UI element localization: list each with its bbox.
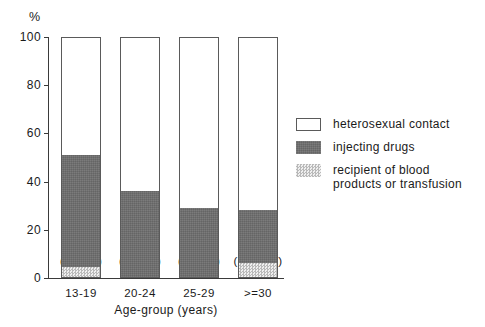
legend-label: heterosexual contact [333,117,450,131]
y-tick-mark [44,133,48,134]
category-label: >=30 [244,287,272,299]
bar-segment-injecting-drugs[interactable] [180,208,218,277]
bar-stack[interactable] [238,37,278,278]
legend-swatch-icon [296,141,321,154]
legend-swatch-icon [296,118,321,131]
legend-item-heterosexual-contact[interactable]: heterosexual contact [296,117,476,131]
bar-segment-injecting-drugs[interactable] [239,210,277,263]
y-tick-label: 60 [27,126,41,140]
bar-stack[interactable] [61,37,101,278]
y-tick-mark [44,85,48,86]
chart-figure: % 100 80 60 40 20 0 (n=13 [0,0,485,327]
y-tick-label: 20 [27,223,41,237]
y-tick-label: 100 [20,30,41,44]
y-tick-mark [44,230,48,231]
bar-segment-injecting-drugs[interactable] [121,191,159,277]
category-label: 25-29 [183,287,214,299]
legend-swatch-icon [296,164,321,177]
y-tick-mark [44,182,48,183]
category-label: 20-24 [124,287,155,299]
bar-segment-heterosexual-contact[interactable] [121,38,159,191]
bar-stack[interactable] [120,37,160,278]
bar-segment-injecting-drugs[interactable] [62,155,100,267]
y-tick-label: 80 [27,78,41,92]
y-tick-label: 0 [34,271,41,285]
legend-label: recipient of blood products or transfusi… [333,163,462,191]
y-axis-unit-label: % [29,10,40,24]
legend: heterosexual contact injecting drugs rec… [296,117,476,200]
bar-segment-blood-products[interactable] [239,263,277,277]
x-axis-line [48,278,284,279]
y-tick-mark [44,278,48,279]
bar-segment-heterosexual-contact[interactable] [180,38,218,208]
category-label: 13-19 [65,287,96,299]
bar-segment-heterosexual-contact[interactable] [239,38,277,210]
bar-segment-heterosexual-contact[interactable] [62,38,100,155]
y-tick-mark [44,37,48,38]
bar-segment-blood-products[interactable] [62,267,100,277]
y-tick-label: 40 [27,175,41,189]
legend-label: injecting drugs [333,140,415,154]
legend-item-blood-products[interactable]: recipient of blood products or transfusi… [296,163,476,191]
y-axis-line [48,37,49,278]
bar-stack[interactable] [179,37,219,278]
legend-item-injecting-drugs[interactable]: injecting drugs [296,140,476,154]
plot-area: 100 80 60 40 20 0 (n=139) [48,37,284,278]
x-axis-title: Age-group (years) [48,303,284,317]
